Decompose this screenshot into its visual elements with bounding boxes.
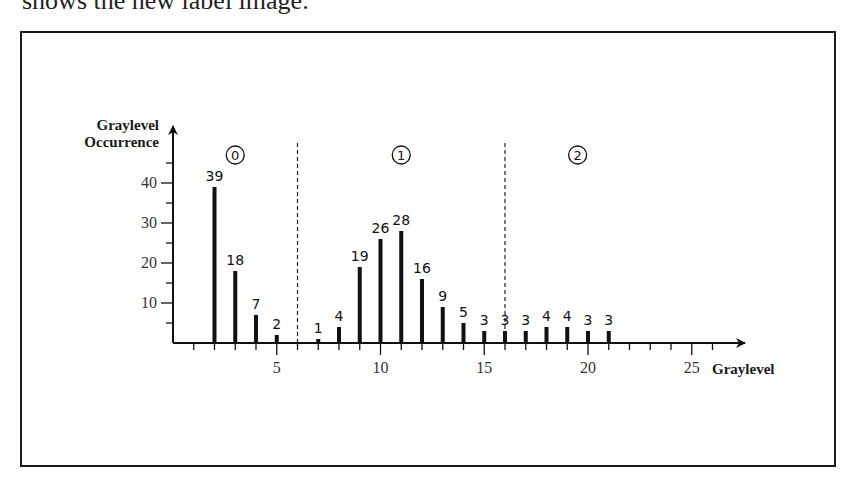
x-tick-label: 15 <box>476 359 492 376</box>
bar <box>607 331 611 343</box>
x-tick-label: 5 <box>273 359 281 376</box>
bar <box>586 331 590 343</box>
bar-value-label: 4 <box>335 308 344 324</box>
bar-value-label: 4 <box>563 308 572 324</box>
bar <box>379 239 383 343</box>
bar-value-label: 28 <box>392 212 410 228</box>
bar <box>462 323 466 343</box>
bar <box>524 331 528 343</box>
axes: 510152025Graylevel10203040GraylevelOccur… <box>84 117 774 377</box>
bar <box>420 279 424 343</box>
bar-value-label: 16 <box>413 260 431 276</box>
x-tick-label: 20 <box>580 359 596 376</box>
bar-value-label: 1 <box>314 320 323 336</box>
region-label: 2 <box>573 148 581 163</box>
bar <box>503 331 507 343</box>
bar <box>545 327 549 343</box>
bar <box>358 267 362 343</box>
bar <box>275 335 279 343</box>
bar <box>233 271 237 343</box>
bar-value-label: 18 <box>226 252 244 268</box>
bar-value-label: 26 <box>372 220 390 236</box>
y-tick-label: 10 <box>141 294 157 311</box>
y-tick-label: 30 <box>141 214 157 231</box>
bar-value-label: 19 <box>351 248 369 264</box>
x-tick-label: 25 <box>684 359 700 376</box>
bar-value-label: 3 <box>501 312 510 328</box>
y-axis-label: Graylevel <box>97 117 159 133</box>
bar <box>213 187 217 343</box>
region-label: 0 <box>231 148 239 163</box>
y-tick-label: 20 <box>141 254 157 271</box>
bar <box>565 327 569 343</box>
bar <box>441 307 445 343</box>
bar-value-label: 3 <box>521 312 530 328</box>
bar-value-label: 5 <box>459 304 468 320</box>
bar-value-label: 3 <box>604 312 613 328</box>
region-label: 1 <box>397 148 405 163</box>
bar-value-label: 3 <box>584 312 593 328</box>
bar-value-label: 9 <box>438 288 447 304</box>
bar <box>482 331 486 343</box>
x-tick-label: 10 <box>373 359 389 376</box>
bar-value-label: 3 <box>480 312 489 328</box>
histogram-chart: 510152025Graylevel10203040GraylevelOccur… <box>0 0 850 483</box>
bar <box>316 339 320 343</box>
bar-value-label: 2 <box>272 316 281 332</box>
y-axis-label: Occurrence <box>84 134 159 150</box>
bar <box>254 315 258 343</box>
y-tick-label: 40 <box>141 174 157 191</box>
bar-value-label: 4 <box>542 308 551 324</box>
labels: 0123918721419262816953334433 <box>206 146 614 336</box>
x-axis-label: Graylevel <box>712 361 774 377</box>
bar-value-label: 39 <box>206 168 224 184</box>
bar-value-label: 7 <box>252 296 261 312</box>
bar <box>399 231 403 343</box>
bar <box>337 327 341 343</box>
